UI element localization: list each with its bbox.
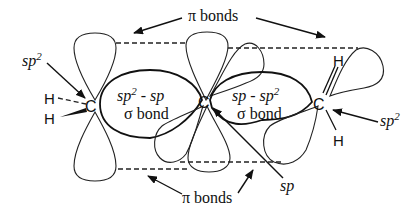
pi-bonds-label-top: π bonds xyxy=(188,7,238,24)
center-p-orbital-top-lobe xyxy=(186,32,228,100)
hydrogen-left-top: H xyxy=(44,90,55,107)
pi-bonds-top-arrow-left xyxy=(134,18,182,33)
hybridization-left-label: sp2 xyxy=(22,50,42,70)
hybridization-right-label: sp2 xyxy=(380,110,400,130)
carbon-left: C xyxy=(85,98,97,115)
left-p-orbital-bottom-lobe xyxy=(74,112,116,181)
left-h-wedge-bond xyxy=(60,108,87,117)
hydrogen-left-bottom: H xyxy=(44,110,55,127)
left-sigma-hybrid-label: sp2 - sp xyxy=(117,85,164,105)
carbon-right: C xyxy=(313,96,325,113)
hydrogen-right-top: H xyxy=(333,52,344,69)
right-h-bottom-bond xyxy=(326,110,336,130)
right-sigma-hybrid-label: sp - sp2 xyxy=(232,85,280,105)
pi-bonds-bottom-arrow-right xyxy=(238,170,253,193)
allene-orbital-diagram: C C C H H H H π bonds π bonds sp2 - sp σ… xyxy=(0,0,415,215)
left-sigma-bond-orbital xyxy=(100,70,202,138)
left-h-dashed-bond xyxy=(58,98,86,104)
pi-bonds-label-bottom: π bonds xyxy=(182,189,232,206)
hydrogen-right-bottom: H xyxy=(333,132,344,149)
hybridization-center-label: sp xyxy=(280,177,294,195)
left-p-orbital-top-lobe xyxy=(74,33,116,100)
right-sigma-bond-label: σ bond xyxy=(237,105,282,122)
carbon-center: C xyxy=(198,94,210,111)
pi-bonds-top-arrow-right xyxy=(256,18,325,37)
pi-bonds-bottom-arrow-left xyxy=(148,176,182,194)
left-sigma-bond-label: σ bond xyxy=(124,105,169,122)
sp2-right-arrow xyxy=(333,110,378,122)
